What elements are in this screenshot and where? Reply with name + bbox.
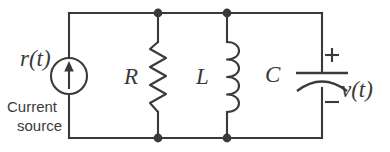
circuit-schematic-svg: r(t) Current source R L C v(t) <box>0 0 390 152</box>
node-dot-top-right <box>223 9 232 18</box>
resistor-symbol <box>150 42 166 112</box>
output-voltage-label: v(t) <box>341 77 373 102</box>
capacitor-label: C <box>265 62 281 87</box>
node-dot-bottom-left <box>154 134 163 143</box>
node-dot-bottom-right <box>223 134 232 143</box>
resistor-zigzag <box>150 42 166 112</box>
source-caption-line2: source <box>17 117 62 134</box>
inductor-symbol <box>227 42 239 112</box>
source-signal-label: r(t) <box>20 46 51 71</box>
current-source-symbol <box>51 58 87 94</box>
node-dot-top-left <box>154 9 163 18</box>
inductor-coil <box>227 42 239 112</box>
resistor-label: R <box>123 64 138 89</box>
inductor-label: L <box>195 64 209 89</box>
circuit-diagram: r(t) Current source R L C v(t) <box>0 0 390 152</box>
source-caption-line1: Current <box>7 98 58 115</box>
polarity-marks <box>325 48 339 102</box>
